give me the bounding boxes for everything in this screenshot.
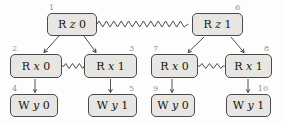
- node-val: 1: [257, 100, 264, 111]
- node-var: x: [172, 61, 178, 72]
- node-var: x: [34, 61, 40, 72]
- node-var: y: [33, 100, 39, 111]
- event-number-4: 4: [12, 85, 17, 93]
- node-1-read-z-0: 1 R z 0: [47, 13, 97, 36]
- node-var: x: [246, 61, 252, 72]
- event-number-6: 6: [235, 4, 240, 12]
- node-6-read-z-1: 6 R z 1: [192, 13, 243, 36]
- event-number-7: 7: [153, 45, 158, 53]
- event-number-1: 1: [49, 4, 54, 12]
- edge-arrow-6-7: [188, 37, 204, 53]
- node-10-write-y-1: 10 W y 1: [226, 94, 271, 117]
- edge-zigzag-7-8: [198, 64, 225, 69]
- node-op: W: [233, 100, 244, 111]
- node-op: R: [234, 61, 242, 72]
- node-op: R: [203, 19, 211, 30]
- node-val: 1: [121, 100, 128, 111]
- node-5-write-y-1: 5 W y 1: [88, 94, 137, 117]
- node-val: 1: [118, 61, 125, 72]
- node-val: 0: [43, 61, 50, 72]
- event-number-8: 8: [264, 45, 269, 53]
- node-2-read-x-0: 2 R x 0: [10, 54, 62, 78]
- node-8-read-x-1: 8 R x 1: [225, 54, 272, 78]
- node-val: 0: [182, 61, 189, 72]
- event-number-3: 3: [129, 45, 134, 53]
- node-val: 1: [225, 19, 232, 30]
- node-4-write-y-0: 4 W y 0: [10, 94, 58, 117]
- node-var: y: [248, 100, 254, 111]
- node-op: W: [97, 100, 108, 111]
- node-var: z: [215, 19, 221, 30]
- node-9-write-y-0: 9 W y 0: [151, 94, 195, 117]
- edge-arrow-1-2: [44, 36, 59, 53]
- node-val: 0: [43, 100, 50, 111]
- edge-arrow-1-3: [84, 36, 96, 53]
- node-val: 0: [182, 100, 189, 111]
- node-var: y: [112, 100, 118, 111]
- node-var: y: [172, 100, 178, 111]
- node-val: 1: [256, 61, 263, 72]
- edge-zigzag-1-6: [97, 21, 188, 27]
- event-number-5: 5: [129, 85, 134, 93]
- event-number-2: 2: [12, 45, 17, 53]
- node-7-read-x-0: 7 R x 0: [151, 54, 198, 78]
- node-val: 0: [79, 19, 86, 30]
- node-op: R: [160, 61, 168, 72]
- event-graph-diagram: 1 R z 0 2 R x 0 3 R x 1 4 W y 0 5 W y 1 …: [0, 0, 284, 124]
- edge-arrow-6-8: [231, 37, 244, 53]
- node-op: W: [18, 100, 29, 111]
- event-number-9: 9: [153, 85, 158, 93]
- event-number-10: 10: [258, 85, 268, 93]
- node-var: x: [108, 61, 114, 72]
- node-var: z: [70, 19, 76, 30]
- node-op: R: [22, 61, 30, 72]
- node-3-read-x-1: 3 R x 1: [84, 54, 137, 78]
- node-op: W: [157, 100, 168, 111]
- node-op: R: [58, 19, 66, 30]
- node-op: R: [96, 61, 104, 72]
